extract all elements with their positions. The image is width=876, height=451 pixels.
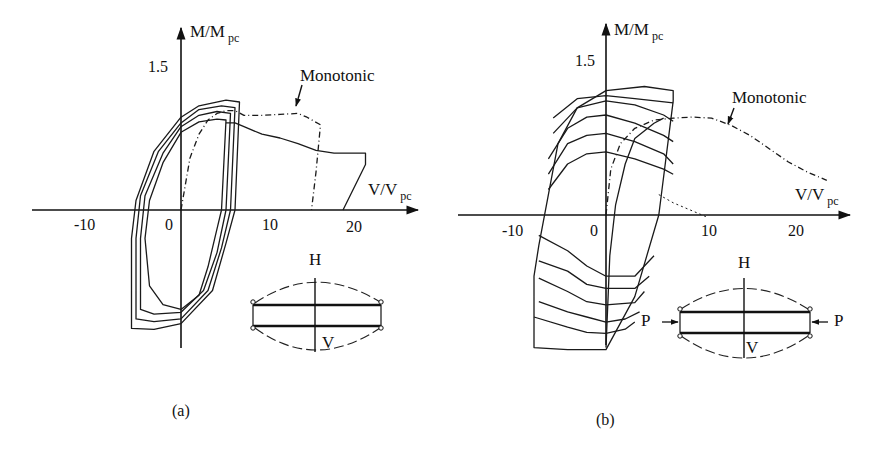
series-cycle-2 <box>141 112 231 315</box>
inset-label-v-b: V <box>746 338 758 358</box>
figure-canvas <box>0 0 876 451</box>
x-tick-a-0: 0 <box>165 216 173 234</box>
caption-b: (b) <box>596 411 615 429</box>
x-tick-a-10: 10 <box>262 216 278 234</box>
x-tick-a-neg10: -10 <box>74 216 95 234</box>
monotonic-pointer-b <box>728 108 734 124</box>
series-cyclic-envelope-tail <box>226 123 366 210</box>
hysteresis-curves-a <box>132 100 366 329</box>
x-tick-b-20: 20 <box>788 222 804 240</box>
caption-a: (a) <box>172 402 190 420</box>
series-loading-branch <box>606 118 664 348</box>
inset-label-h-a: H <box>309 250 321 270</box>
monotonic-label-b: Monotonic <box>732 88 807 108</box>
x-axis-label-b: V/Vpc <box>795 185 839 209</box>
inset-label-v-a: V <box>322 333 334 353</box>
series-monotonic <box>606 117 827 215</box>
series-monotonic <box>181 111 321 210</box>
inset-label-p-right: P <box>834 311 843 331</box>
series-outer-loop <box>534 87 673 350</box>
x-tick-a-20: 20 <box>346 218 362 236</box>
y-axis-label-b: M/Mpc <box>614 20 663 44</box>
y-tick-a: 1.5 <box>148 58 168 76</box>
series-cycle-i <box>539 302 640 322</box>
monotonic-pointer-a <box>296 85 302 106</box>
x-tick-b-10: 10 <box>701 222 717 240</box>
series-post-peak-tail <box>659 195 707 217</box>
x-axis-label-a: V/Vpc <box>368 180 412 204</box>
x-tick-b-0: 0 <box>590 222 598 240</box>
inset-label-h-b: H <box>738 253 750 273</box>
inset-diagram-a <box>251 278 383 352</box>
figure: M/Mpc 1.5 Monotonic V/Vpc -10 0 10 20 H … <box>0 0 876 451</box>
y-tick-b: 1.5 <box>575 52 595 70</box>
chart-panel-b <box>458 24 850 358</box>
inset-label-p-left: P <box>641 311 650 331</box>
y-axis-label-a: M/Mpc <box>190 22 239 46</box>
series-cycle-g <box>539 261 649 289</box>
series-cycle-h <box>539 278 645 305</box>
inset-diagram-b <box>662 278 828 358</box>
series-cycle-f <box>539 235 654 276</box>
monotonic-label-a: Monotonic <box>300 66 375 86</box>
series-cycle-b <box>548 133 673 174</box>
x-tick-b-neg10: -10 <box>502 222 523 240</box>
